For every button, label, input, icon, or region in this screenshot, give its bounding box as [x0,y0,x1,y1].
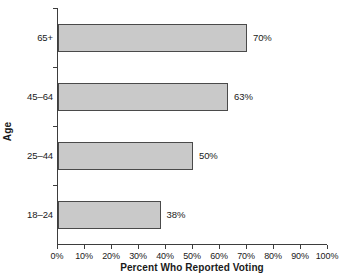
bar-value-label: 50% [199,150,218,161]
bar [58,201,161,229]
x-tick-label: 50% [183,251,201,261]
x-tick-label: 80% [264,251,282,261]
x-axis-title: Percent Who Reported Voting [57,262,327,273]
x-tick-label: 60% [210,251,228,261]
x-tick-label: 100% [316,251,339,261]
x-tick-label: 0% [51,251,64,261]
x-tick-mark [84,245,85,249]
y-tick-mark [53,185,57,186]
x-tick-mark [57,245,58,249]
bar-value-label: 63% [234,91,253,102]
x-tick-mark [192,245,193,249]
x-tick-mark [327,245,328,249]
y-axis-title: Age [0,108,16,154]
bar [58,142,193,170]
bar-chart: Age 0%10%20%30%40%50%60%70%80%90%100% 38… [0,0,344,280]
plot-area: 0%10%20%30%40%50%60%70%80%90%100% 38%50%… [57,8,327,244]
bar-value-label: 38% [167,209,186,220]
y-tick-mark [53,67,57,68]
x-tick-mark [273,245,274,249]
y-tick-mark [53,126,57,127]
category-label: 25–44 [0,150,53,161]
bar [58,24,247,52]
x-tick-label: 70% [237,251,255,261]
x-tick-mark [219,245,220,249]
y-tick-mark [53,8,57,9]
x-tick-label: 30% [129,251,147,261]
x-tick-mark [138,245,139,249]
x-tick-label: 40% [156,251,174,261]
x-tick-mark [246,245,247,249]
x-tick-label: 20% [102,251,120,261]
bar-value-label: 70% [253,32,272,43]
category-label: 45–64 [0,91,53,102]
x-tick-mark [165,245,166,249]
x-tick-mark [300,245,301,249]
category-label: 18–24 [0,209,53,220]
x-tick-label: 90% [291,251,309,261]
x-tick-label: 10% [75,251,93,261]
category-label: 65+ [0,32,53,43]
y-axis-title-text: Age [3,121,14,141]
bar [58,83,228,111]
x-tick-mark [111,245,112,249]
